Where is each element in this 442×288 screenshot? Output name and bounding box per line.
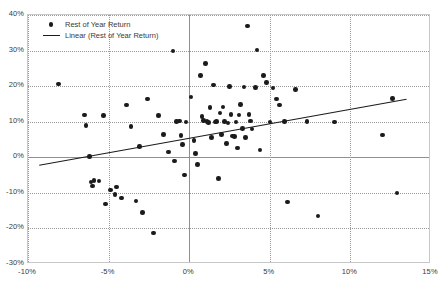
data-point	[285, 200, 290, 205]
data-point	[282, 119, 287, 124]
data-point	[101, 113, 106, 118]
x-axis-tick-label: 5%	[249, 267, 289, 276]
data-point	[232, 134, 237, 139]
data-point	[395, 191, 400, 196]
data-point	[172, 159, 177, 164]
data-point	[380, 133, 385, 138]
data-point	[140, 210, 145, 215]
gridline-horizontal	[28, 51, 429, 52]
data-point	[184, 120, 189, 125]
x-zero-axis-line	[189, 15, 190, 262]
data-point	[179, 133, 184, 138]
gridline-horizontal	[28, 15, 429, 16]
trend-line	[28, 15, 429, 262]
x-axis-tick-label: -5%	[88, 267, 128, 276]
data-point	[151, 231, 156, 236]
data-point	[258, 148, 263, 153]
y-axis-tick-label: 40%	[9, 9, 24, 18]
data-point	[198, 73, 203, 78]
data-point	[218, 111, 223, 116]
data-point	[90, 184, 95, 189]
legend-item-rest-of-year-return: Rest of Year Return	[40, 19, 158, 30]
data-point	[247, 112, 252, 117]
data-point	[264, 80, 269, 85]
data-point	[245, 24, 250, 29]
y-axis-tick-label: -20%	[6, 222, 24, 231]
data-point	[134, 199, 139, 204]
data-point	[87, 154, 92, 159]
scatter-chart: 40%30%20%10%0%-10%-20%-30% -10%-5%0%5%10…	[0, 0, 442, 288]
gridline-vertical	[28, 15, 29, 262]
data-point	[103, 202, 108, 207]
legend-label-trend: Linear (Rest of Year Return)	[65, 30, 158, 41]
data-point	[145, 97, 150, 102]
data-point	[226, 121, 231, 126]
data-point	[316, 214, 321, 219]
gridline-horizontal	[28, 193, 429, 194]
y-axis-tick-label: -10%	[6, 187, 24, 196]
data-point	[92, 178, 97, 183]
data-point	[216, 176, 221, 181]
gridline-vertical	[270, 15, 271, 262]
data-point	[189, 95, 194, 100]
data-point	[177, 119, 182, 124]
legend-marker-line-icon	[40, 31, 62, 40]
data-point	[166, 150, 171, 155]
y-axis-tick-label: 0%	[13, 151, 24, 160]
gridline-vertical	[350, 15, 351, 262]
data-point	[235, 146, 240, 151]
data-point	[227, 84, 232, 89]
data-point	[240, 126, 245, 131]
data-point	[229, 112, 234, 117]
data-point	[214, 119, 219, 124]
y-axis-tick-label: 10%	[9, 116, 24, 125]
x-axis-tick-label: 0%	[168, 267, 208, 276]
data-point	[238, 102, 243, 107]
data-point	[195, 162, 200, 167]
legend-label-series: Rest of Year Return	[65, 19, 130, 30]
data-point	[203, 61, 208, 66]
data-point	[274, 97, 279, 102]
data-point	[84, 123, 89, 128]
data-point	[271, 86, 276, 91]
data-point	[293, 87, 298, 92]
gridline-vertical	[109, 15, 110, 262]
x-axis-tick-label: 15%	[410, 267, 442, 276]
data-point	[211, 83, 216, 88]
data-point	[129, 124, 134, 129]
y-axis-tick-label: 20%	[9, 80, 24, 89]
data-point	[268, 120, 273, 125]
y-axis-tick-label: -30%	[6, 258, 24, 267]
data-point	[219, 132, 224, 137]
data-point	[182, 173, 187, 178]
data-point	[224, 141, 229, 146]
data-point	[248, 119, 253, 124]
data-point	[253, 85, 258, 90]
data-point	[242, 85, 247, 90]
data-point	[156, 113, 161, 118]
legend-marker-dot-icon	[40, 20, 62, 29]
data-point	[237, 113, 242, 118]
data-point	[161, 132, 166, 137]
data-point	[171, 49, 176, 54]
data-point	[124, 103, 129, 108]
data-point	[277, 103, 282, 108]
data-point	[234, 120, 239, 125]
data-point	[192, 138, 197, 143]
plot-area	[27, 14, 430, 263]
data-point	[97, 179, 102, 184]
data-point	[221, 105, 226, 110]
gridline-horizontal	[28, 228, 429, 229]
data-point	[332, 120, 337, 125]
data-point	[113, 192, 118, 197]
data-point	[206, 120, 211, 125]
data-point	[108, 188, 113, 193]
data-point	[305, 119, 310, 124]
data-point	[243, 135, 248, 140]
data-point	[82, 113, 87, 118]
data-point	[261, 73, 266, 78]
data-point	[209, 135, 214, 140]
legend-item-linear-trend: Linear (Rest of Year Return)	[40, 30, 158, 41]
data-point	[193, 151, 198, 156]
x-axis-tick-label: 10%	[329, 267, 369, 276]
